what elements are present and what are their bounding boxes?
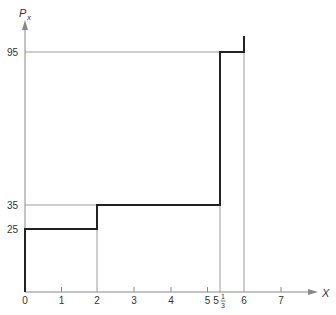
x-tick-5-third-den: 3 [221,302,225,309]
x-tick-0: 0 [22,295,28,306]
x-tick-4: 4 [168,295,174,306]
x-tick-6: 6 [241,295,247,306]
x-tick-5-third-whole: 5 [213,295,219,306]
y-tick-35: 35 [7,200,19,211]
x-tick-5-third-num: 1 [221,293,225,300]
step-chart: 95 35 25 0 1 2 3 4 5 5 1 3 6 7 P x X [0,0,336,315]
y-axis-label: P [19,7,27,19]
y-axis-label-sub: x [26,13,32,22]
x-axis-label: X [321,287,330,299]
x-ticks [62,287,282,292]
x-tick-1: 1 [59,295,65,306]
step-line [25,36,244,292]
x-tick-3: 3 [131,295,137,306]
x-tick-7: 7 [278,295,284,306]
x-tick-5: 5 [205,295,211,306]
y-tick-95: 95 [7,47,19,58]
x-axis-arrow-icon [308,289,318,295]
y-tick-25: 25 [7,224,19,235]
x-tick-2: 2 [94,295,100,306]
